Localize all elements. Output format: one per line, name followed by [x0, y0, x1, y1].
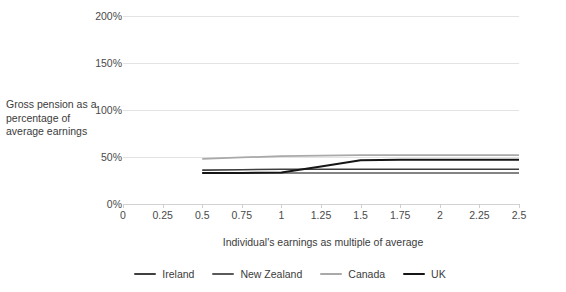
legend-label: Canada: [348, 268, 385, 280]
chart-container: Gross pension as a percentage of average…: [0, 0, 566, 292]
series-line-canada: [202, 155, 519, 159]
y-axis-tick-label: 50%: [94, 151, 122, 163]
x-axis-tick-label: 1.25: [311, 209, 331, 221]
legend-item-new-zealand[interactable]: New Zealand: [212, 268, 302, 280]
x-axis-title: Individual's earnings as multiple of ave…: [0, 236, 566, 248]
x-tick-mark: [242, 204, 243, 208]
x-axis-tick-label: 2.5: [512, 209, 527, 221]
x-tick-mark: [519, 204, 520, 208]
legend-swatch-icon: [212, 273, 234, 276]
y-axis-tick-label: 150%: [94, 57, 122, 69]
series-line-uk: [202, 160, 519, 173]
x-axis-tick-label: 0.75: [232, 209, 252, 221]
legend-item-ireland[interactable]: Ireland: [134, 268, 194, 280]
legend-swatch-icon: [320, 273, 342, 276]
x-axis-tick-label: 2: [437, 209, 443, 221]
legend-item-uk[interactable]: UK: [403, 268, 446, 280]
y-axis-tick-label: 200%: [94, 10, 122, 22]
legend-label: UK: [431, 268, 446, 280]
x-tick-mark: [281, 204, 282, 208]
x-tick-mark: [123, 204, 124, 208]
x-axis-tick-label: 0: [120, 209, 126, 221]
x-axis-tick-label: 1.75: [390, 209, 410, 221]
x-axis-tick-label: 1.5: [353, 209, 368, 221]
series-line-ireland: [202, 169, 519, 170]
legend-swatch-icon: [403, 273, 425, 276]
chart-legend: IrelandNew ZealandCanadaUK: [0, 268, 566, 280]
x-tick-mark: [440, 204, 441, 208]
x-tick-mark: [400, 204, 401, 208]
x-axis-tick-label: 0.25: [152, 209, 172, 221]
x-tick-mark: [163, 204, 164, 208]
x-tick-mark: [202, 204, 203, 208]
plot-area: [123, 16, 519, 204]
legend-swatch-icon: [134, 273, 156, 276]
x-axis-title-text: Individual's earnings as multiple of ave…: [143, 236, 423, 248]
x-tick-mark: [321, 204, 322, 208]
legend-label: New Zealand: [240, 268, 302, 280]
x-axis-tick-label: 2.25: [469, 209, 489, 221]
legend-label: Ireland: [162, 268, 194, 280]
y-axis-tick-label: 0%: [94, 198, 122, 210]
x-tick-mark: [361, 204, 362, 208]
y-axis-tick-label: 100%: [94, 104, 122, 116]
x-axis-tick-label: 1: [278, 209, 284, 221]
legend-item-canada[interactable]: Canada: [320, 268, 385, 280]
y-axis-title: Gross pension as a percentage of average…: [6, 98, 98, 139]
series-lines: [123, 16, 519, 204]
x-axis-tick-label: 0.5: [195, 209, 210, 221]
x-tick-mark: [479, 204, 480, 208]
